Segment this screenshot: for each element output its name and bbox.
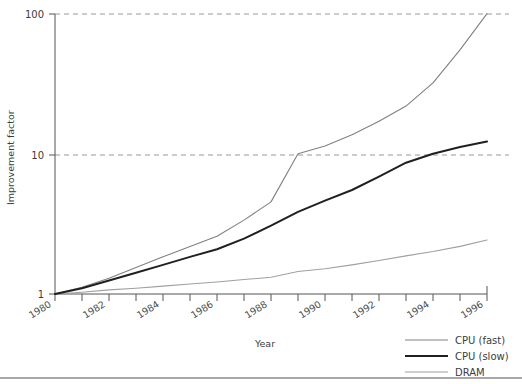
y-tick-label-1: 1 xyxy=(38,289,44,300)
legend-label-dram: DRAM xyxy=(455,367,485,378)
improvement-factor-line-chart: 100 10 1 Improvement factor 19 xyxy=(0,0,522,384)
y-tick-label-100: 100 xyxy=(25,9,44,20)
legend-label-cpu-fast: CPU (fast) xyxy=(455,335,505,346)
chart-figure: 100 10 1 Improvement factor 19 xyxy=(0,0,522,384)
canvas-background xyxy=(0,0,522,384)
x-axis-title: Year xyxy=(254,338,275,349)
y-axis-title: Improvement factor xyxy=(5,110,16,205)
y-tick-label-10: 10 xyxy=(31,150,44,161)
legend-label-cpu-slow: CPU (slow) xyxy=(455,351,509,362)
